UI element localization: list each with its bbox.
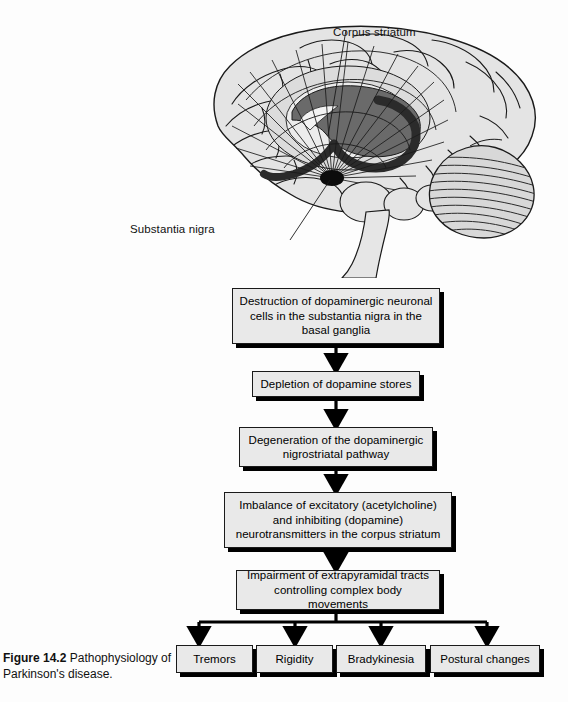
figure-number: Figure 14.2: [3, 651, 66, 665]
outcome-postural-changes: Postural changes: [430, 645, 540, 673]
flow-step-degeneration: Degeneration of the dopaminergic nigrost…: [239, 427, 433, 467]
outcome-bradykinesia: Bradykinesia: [336, 645, 426, 673]
figure-caption: Figure 14.2 Pathophysiology of Parkinson…: [3, 650, 173, 682]
flow-step-imbalance: Imbalance of excitatory (acetylcholine) …: [224, 492, 452, 548]
outcome-rigidity: Rigidity: [256, 645, 333, 673]
outcome-tremors: Tremors: [176, 645, 253, 673]
figure-page: Corpus striatum Substantia nigra: [0, 0, 568, 702]
flow-step-depletion: Depletion of dopamine stores: [252, 371, 420, 397]
flow-step-impairment: Impairment of extrapyramidal tracts cont…: [236, 570, 440, 610]
flow-step-destruction: Destruction of dopaminergic neuronal cel…: [232, 288, 440, 344]
